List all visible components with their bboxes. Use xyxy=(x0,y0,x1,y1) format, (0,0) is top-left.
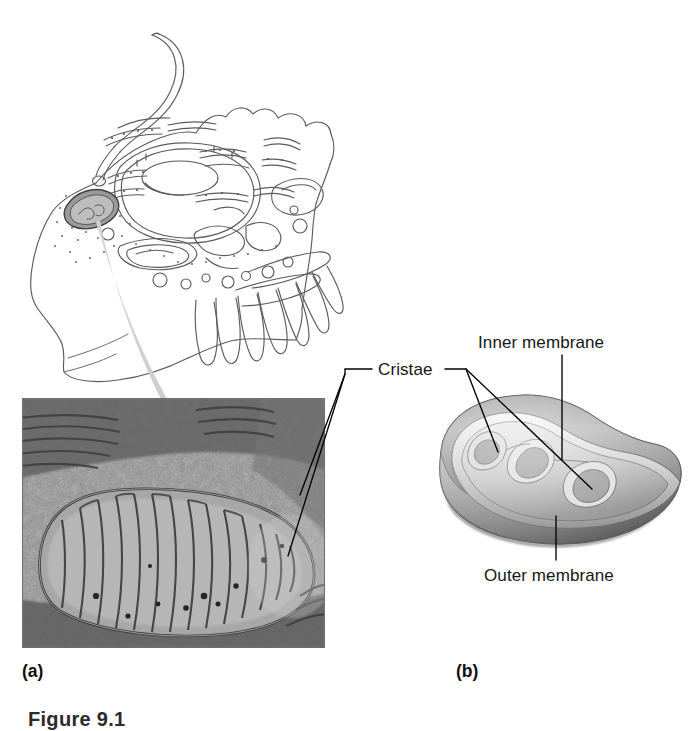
panel-letter-a: (a) xyxy=(22,661,43,682)
figure-caption: Figure 9.1 xyxy=(28,708,125,731)
label-cristae: Cristae xyxy=(378,361,433,378)
label-outer-membrane: Outer membrane xyxy=(484,567,614,584)
panel-letter-b: (b) xyxy=(456,661,478,682)
label-inner-membrane: Inner membrane xyxy=(478,334,604,351)
